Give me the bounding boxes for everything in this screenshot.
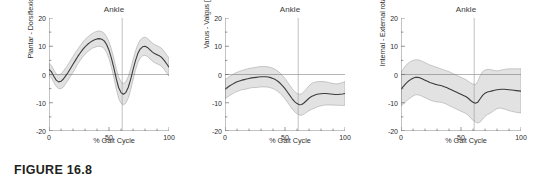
y-tick-label: 20 <box>38 15 46 22</box>
sd-band <box>401 60 521 123</box>
chart-panel-varus-valgus: Ankle Varus - Valgus [°] -20-10010200501… <box>190 0 360 150</box>
plot-area: -20-1001020050100 <box>49 18 169 131</box>
x-axis-label: % Gait Cycle <box>220 136 360 145</box>
y-tick-label: -20 <box>388 128 398 135</box>
sd-band <box>225 67 345 116</box>
y-tick-label: 0 <box>218 71 222 78</box>
y-tick-label: 20 <box>390 15 398 22</box>
x-axis-label: % Gait Cycle <box>44 136 184 145</box>
y-tick-label: -20 <box>212 128 222 135</box>
chart-title: Ankle <box>220 5 360 14</box>
chart-svg <box>401 18 521 131</box>
y-tick-label: -10 <box>212 99 222 106</box>
plot-svg-holder <box>49 18 169 131</box>
sd-band <box>49 31 169 105</box>
y-tick-label: 0 <box>42 71 46 78</box>
x-axis-label: % Gait Cycle <box>396 136 536 145</box>
chart-title: Ankle <box>396 5 536 14</box>
y-tick-label: -20 <box>36 128 46 135</box>
chart-panel-plantar-dorsiflexion: Ankle Plantar - Dorsiflexion [°] -20-100… <box>14 0 184 150</box>
chart-svg <box>49 18 169 131</box>
y-tick-label: -10 <box>388 99 398 106</box>
chart-panel-internal-external-rotation: Ankle Internal - External rotation [°] -… <box>366 0 536 150</box>
y-tick-label: 20 <box>214 15 222 22</box>
y-tick-label: -10 <box>36 99 46 106</box>
figure-container: Ankle Plantar - Dorsiflexion [°] -20-100… <box>0 0 544 185</box>
y-tick-label: 10 <box>214 43 222 50</box>
y-axis-label: Varus - Valgus [°] <box>202 0 214 78</box>
chart-title: Ankle <box>44 5 184 14</box>
y-axis-label: Plantar - Dorsiflexion [°] <box>26 0 38 79</box>
y-tick-label: 10 <box>38 43 46 50</box>
plot-svg-holder <box>401 18 521 131</box>
figure-caption: FIGURE 16.8 <box>14 163 92 177</box>
plot-svg-holder <box>225 18 345 131</box>
y-tick-label: 10 <box>390 43 398 50</box>
plot-area: -20-1001020050100 <box>401 18 521 131</box>
chart-svg <box>225 18 345 131</box>
y-axis-label: Internal - External rotation [°] <box>378 0 390 78</box>
y-tick-label: 0 <box>394 71 398 78</box>
plot-area: -20-1001020050100 <box>225 18 345 131</box>
